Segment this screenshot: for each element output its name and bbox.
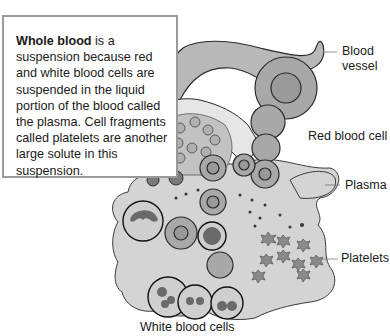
label-red-blood-cell: Red blood cell (308, 129, 387, 144)
description-textbox: Whole blood is a suspension because red … (2, 15, 178, 178)
label-plasma: Plasma (345, 178, 387, 193)
label-white-blood-cells: White blood cells (140, 320, 235, 335)
label-blood-vessel: Blood vessel (342, 44, 377, 74)
description-body: is a suspension because red and white bl… (16, 34, 167, 178)
term-whole-blood: Whole blood (16, 34, 92, 48)
label-platelets: Platelets (341, 251, 389, 266)
